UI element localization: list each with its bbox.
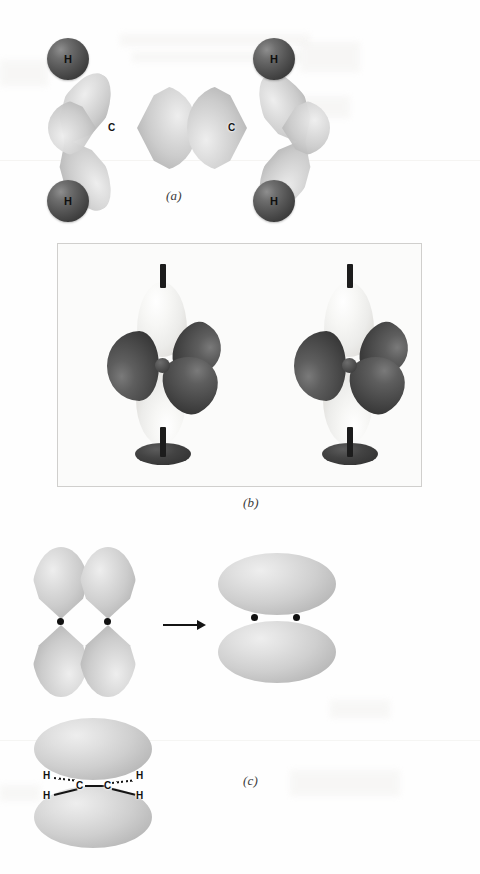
- panel-b-orbital-models: (b): [0, 230, 480, 530]
- nucleus-dot: [57, 618, 64, 625]
- pi-cloud-upper-lobe: [218, 553, 336, 615]
- arrow-head-icon: [197, 620, 206, 630]
- atom-label-hydrogen: H: [270, 53, 278, 65]
- step-two-p-orbitals: [32, 543, 162, 703]
- model-rod-bottom: [347, 427, 353, 457]
- atom-hydrogen-sphere: H: [253, 180, 295, 222]
- panel-b-caption: (b): [243, 495, 259, 511]
- orbital-lobe-p: [79, 547, 137, 619]
- atom-hydrogen-sphere: H: [253, 38, 295, 80]
- panel-a-caption: (a): [166, 188, 182, 204]
- atom-hydrogen-sphere: H: [47, 38, 89, 80]
- nucleus-dot: [293, 614, 300, 621]
- model-rod-top: [160, 264, 166, 288]
- model-rod-top: [347, 264, 353, 288]
- model-rod-bottom: [160, 427, 166, 457]
- nucleus-dot: [251, 614, 258, 621]
- orbital-lobe-p: [79, 625, 137, 697]
- panel-a-sigma-framework: H H H H C C (a): [0, 0, 480, 225]
- figure-page: H H H H C C (a): [0, 0, 480, 874]
- panel-c-caption: (c): [243, 773, 258, 789]
- atom-label-hydrogen: H: [43, 790, 50, 801]
- atom-label-carbon: C: [228, 122, 235, 133]
- atom-label-carbon: C: [108, 122, 115, 133]
- atom-label-hydrogen: H: [64, 53, 72, 65]
- bond-h-upper-right: [112, 779, 135, 784]
- atom-label-carbon: C: [76, 780, 83, 791]
- nucleus-dot: [104, 618, 111, 625]
- bond-carbon-carbon: [85, 785, 105, 787]
- atom-label-hydrogen: H: [136, 790, 143, 801]
- orbital-lobe-sp2: [187, 85, 247, 171]
- orbital-model-right: [287, 255, 417, 480]
- orbital-lobe-sp2-left: [107, 331, 159, 401]
- atom-label-hydrogen: H: [64, 195, 72, 207]
- ethylene-pi-structure: H H C C H H: [32, 718, 212, 868]
- atom-label-hydrogen: H: [43, 770, 50, 781]
- pi-cloud-lower-lobe: [218, 621, 336, 683]
- orbital-model-left: [100, 255, 230, 480]
- arrow-shaft: [163, 624, 199, 626]
- transformation-arrow: [163, 619, 215, 631]
- atom-label-hydrogen: H: [136, 770, 143, 781]
- atom-label-hydrogen: H: [270, 195, 278, 207]
- pi-cloud-upper-lobe: [34, 718, 152, 780]
- atom-label-carbon: C: [104, 780, 111, 791]
- panel-c-pi-bond-formation: H H C C H H (c): [0, 535, 480, 874]
- orbital-lobe-sp2-left: [294, 331, 346, 401]
- model-hub: [342, 358, 357, 373]
- step-pi-cloud: [218, 553, 358, 698]
- model-hub: [155, 358, 170, 373]
- atom-hydrogen-sphere: H: [47, 180, 89, 222]
